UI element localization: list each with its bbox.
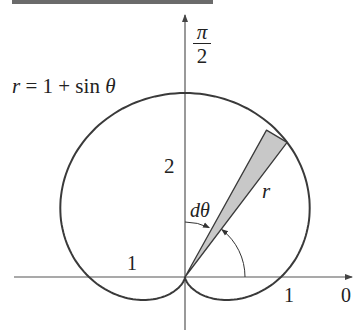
dtheta-angle-arc	[185, 222, 209, 228]
zero-angle-label: 0	[341, 285, 351, 305]
theta-angle-arc	[222, 230, 245, 277]
equation-body: = 1 + sin	[20, 74, 105, 98]
equation-label: r = 1 + sin θ	[12, 76, 115, 97]
dtheta-label: dθ	[190, 200, 210, 220]
radius-two-label: 2	[164, 156, 175, 177]
pi-over-two-label: π 2	[193, 22, 211, 66]
r-label: r	[262, 181, 270, 202]
equation-r: r	[12, 74, 20, 98]
cardioid-figure: r = 1 + sin θ π 2 2 dθ r 1 1 0	[0, 0, 357, 334]
polar-plot	[0, 0, 357, 334]
pi-denominator: 2	[193, 46, 211, 66]
one-left-label: 1	[127, 253, 137, 273]
pi-numerator: π	[193, 22, 211, 42]
one-right-label: 1	[284, 285, 294, 305]
equation-theta: θ	[105, 74, 115, 98]
